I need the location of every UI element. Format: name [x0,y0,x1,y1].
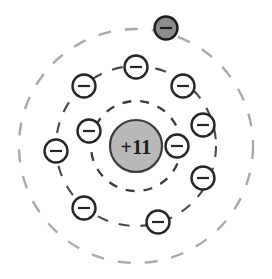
electron-e8 [192,167,215,190]
electron-e7 [192,114,215,137]
electron-e6 [45,140,68,163]
bohr-model-diagram: +11 [0,0,272,279]
electron-e2 [166,135,189,158]
electron-e3 [125,56,148,79]
nucleus-charge-label: +11 [121,136,152,158]
electron-e4 [73,75,96,98]
nucleus-layer: +11 [110,120,162,172]
electron-e5 [172,75,195,98]
electron-e10 [147,211,170,234]
electron-e1 [78,120,101,143]
electron-e9 [73,197,96,220]
electron-e11 [155,17,178,40]
atom-diagram-canvas: +11 [0,0,272,279]
